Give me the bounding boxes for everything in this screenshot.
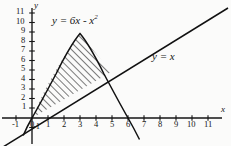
parabola-equation-label: y = 6x - x2 bbox=[52, 14, 98, 26]
x-tick-label-9: 9 bbox=[174, 120, 178, 129]
y-tick-label-2: 2 bbox=[21, 93, 25, 102]
y-axis-label: y bbox=[34, 1, 38, 10]
x-tick-label-3: 3 bbox=[78, 120, 82, 129]
figure-canvas: 11 10 9 8 7 6 5 4 3 2 1 -1 -1 0 1 2 3 4 … bbox=[0, 0, 231, 146]
x-tick-label-11: 11 bbox=[204, 120, 212, 129]
y-tick-label-6: 6 bbox=[21, 55, 25, 64]
x-tick-label-0: 0 bbox=[30, 120, 34, 129]
y-tick-label-8: 8 bbox=[21, 36, 25, 45]
x-tick-label-8: 8 bbox=[158, 120, 162, 129]
y-tick-label-7: 7 bbox=[21, 45, 25, 54]
x-tick-label-2: 2 bbox=[62, 120, 66, 129]
x-tick-label-4: 4 bbox=[94, 120, 98, 129]
x-tick-label-10: 10 bbox=[187, 120, 196, 129]
y-tick-label-3: 3 bbox=[21, 83, 25, 92]
x-tick-label-1: 1 bbox=[46, 120, 50, 129]
parabola-equation-exponent: 2 bbox=[94, 13, 98, 21]
x-tick-label-7: 7 bbox=[142, 120, 146, 129]
y-tick-label-4: 4 bbox=[21, 74, 25, 83]
parabola-equation-text: y = 6x - x bbox=[52, 14, 94, 26]
shaded-region bbox=[32, 34, 112, 118]
x-tick-label-5: 5 bbox=[110, 120, 114, 129]
x-axis-label: x bbox=[221, 105, 225, 114]
y-tick-label-9: 9 bbox=[21, 26, 25, 35]
line-equation-label: y = x bbox=[152, 51, 175, 62]
y-tick-label-10: 10 bbox=[16, 17, 25, 26]
y-tick-label-1: 1 bbox=[22, 102, 26, 111]
x-tick-label-6: 6 bbox=[126, 120, 130, 129]
x-tick-label-neg1: -1 bbox=[12, 120, 19, 129]
y-tick-label-5: 5 bbox=[21, 64, 25, 73]
y-tick-label-11: 11 bbox=[16, 7, 24, 16]
